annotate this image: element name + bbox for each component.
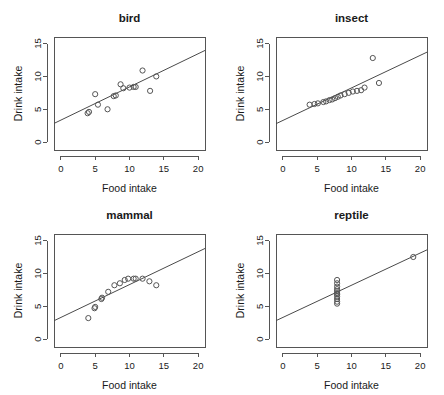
data-point — [126, 276, 131, 281]
y-tick-label-mammal-0: 0 — [32, 336, 43, 341]
x-tick-label-insect-15: 15 — [381, 163, 392, 174]
x-tick-label-reptile-0: 0 — [280, 360, 285, 371]
panel-reptile: reptile05101520Food intake051015Drink in… — [222, 197, 444, 394]
y-tick-label-bird-5: 5 — [32, 107, 43, 112]
data-point — [147, 88, 152, 93]
x-axis-title-mammal: Food intake — [102, 379, 157, 391]
x-tick-label-insect-0: 0 — [280, 163, 285, 174]
panel-title-mammal: mammal — [106, 209, 153, 221]
x-tick-label-mammal-0: 0 — [58, 360, 63, 371]
data-point — [154, 283, 159, 288]
x-tick-label-mammal-5: 5 — [93, 360, 98, 371]
x-tick-label-bird-10: 10 — [124, 163, 135, 174]
x-axis-title-insect: Food intake — [324, 182, 379, 194]
y-axis-title-insect: Drink intake — [234, 66, 246, 122]
y-tick-label-insect-5: 5 — [254, 107, 265, 112]
y-tick-label-insect-15: 15 — [254, 38, 265, 49]
x-tick-label-reptile-10: 10 — [346, 360, 357, 371]
panel-bird-svg: bird05101520Food intake051015Drink intak… — [0, 0, 222, 197]
y-tick-label-reptile-10: 10 — [254, 268, 265, 279]
y-tick-label-mammal-10: 10 — [32, 268, 43, 279]
x-tick-label-bird-5: 5 — [93, 163, 98, 174]
data-point — [85, 111, 90, 116]
y-tick-label-bird-15: 15 — [32, 38, 43, 49]
data-point — [117, 281, 122, 286]
x-tick-label-reptile-20: 20 — [415, 360, 426, 371]
data-point — [95, 102, 100, 107]
x-tick-label-insect-20: 20 — [415, 163, 426, 174]
data-point — [86, 109, 91, 114]
y-tick-label-reptile-5: 5 — [254, 304, 265, 309]
panel-insect-svg: insect05101520Food intake051015Drink int… — [222, 0, 444, 197]
y-tick-label-reptile-0: 0 — [254, 336, 265, 341]
data-point — [105, 107, 110, 112]
data-point — [140, 68, 145, 73]
y-tick-label-reptile-15: 15 — [254, 235, 265, 246]
data-point — [112, 283, 117, 288]
data-point — [106, 289, 111, 294]
x-tick-label-mammal-15: 15 — [159, 360, 170, 371]
plot-box-mammal — [54, 234, 205, 347]
panel-title-bird: bird — [119, 12, 141, 24]
panel-insect: insect05101520Food intake051015Drink int… — [222, 0, 444, 197]
data-point — [370, 55, 375, 60]
plot-box-bird — [54, 37, 205, 150]
y-axis-title-reptile: Drink intake — [234, 263, 246, 319]
y-tick-label-mammal-5: 5 — [32, 304, 43, 309]
data-point — [334, 277, 339, 282]
regression-line-bird — [54, 50, 205, 123]
data-point — [93, 92, 98, 97]
panel-title-insect: insect — [335, 12, 368, 24]
data-point — [154, 74, 159, 79]
plot-box-reptile — [276, 234, 427, 347]
x-tick-label-mammal-20: 20 — [193, 360, 204, 371]
x-axis-title-bird: Food intake — [102, 182, 157, 194]
panel-title-reptile: reptile — [334, 209, 369, 221]
y-tick-label-mammal-15: 15 — [32, 235, 43, 246]
regression-line-mammal — [54, 248, 205, 320]
data-point — [376, 80, 381, 85]
y-tick-label-insect-0: 0 — [254, 139, 265, 144]
data-point — [86, 315, 91, 320]
regression-line-reptile — [276, 250, 427, 321]
panel-reptile-svg: reptile05101520Food intake051015Drink in… — [222, 197, 444, 394]
x-tick-label-bird-20: 20 — [193, 163, 204, 174]
panel-mammal-svg: mammal05101520Food intake051015Drink int… — [0, 197, 222, 394]
regression-line-insect — [276, 52, 427, 124]
data-point — [147, 279, 152, 284]
x-tick-label-reptile-5: 5 — [315, 360, 320, 371]
x-tick-label-bird-15: 15 — [159, 163, 170, 174]
y-axis-title-mammal: Drink intake — [12, 263, 24, 319]
x-tick-label-insect-5: 5 — [315, 163, 320, 174]
scatterplot-panel-grid: bird05101520Food intake051015Drink intak… — [0, 0, 444, 395]
x-tick-label-reptile-15: 15 — [381, 360, 392, 371]
x-tick-label-bird-0: 0 — [58, 163, 63, 174]
y-tick-label-insect-10: 10 — [254, 71, 265, 82]
y-axis-title-bird: Drink intake — [12, 66, 24, 122]
y-tick-label-bird-0: 0 — [32, 139, 43, 144]
panel-mammal: mammal05101520Food intake051015Drink int… — [0, 197, 222, 394]
panel-bird: bird05101520Food intake051015Drink intak… — [0, 0, 222, 197]
x-tick-label-mammal-10: 10 — [124, 360, 135, 371]
x-tick-label-insect-10: 10 — [346, 163, 357, 174]
data-point — [122, 277, 127, 282]
y-tick-label-bird-10: 10 — [32, 71, 43, 82]
x-axis-title-reptile: Food intake — [324, 379, 379, 391]
